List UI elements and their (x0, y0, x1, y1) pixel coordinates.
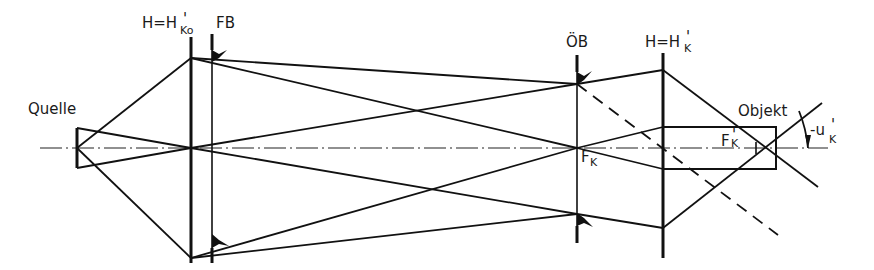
svg-text:K: K (590, 156, 598, 169)
svg-text:K: K (829, 133, 837, 146)
focal-point-label: F K (581, 148, 598, 169)
svg-text:K: K (684, 42, 692, 55)
collector-lens-label: H=H ' Ko (142, 10, 194, 37)
svg-text:H=H: H=H (142, 14, 177, 32)
object-label: Objekt (738, 102, 787, 120)
koehler-illumination-diagram: Quelle H=H ' Ko FB ÖB H=H ' K F K F ' K … (0, 0, 874, 270)
condenser-output-rays (663, 70, 822, 228)
svg-text:F: F (721, 132, 730, 150)
svg-text:-u: -u (810, 121, 825, 139)
svg-text:K: K (731, 137, 739, 150)
focal-point-prime-label: F ' K (721, 126, 739, 150)
field-stop-bottom-marker-icon (212, 234, 229, 248)
svg-text:Ko: Ko (180, 24, 194, 37)
angle-label: -u ' K (810, 116, 837, 146)
aperture-stop-label: ÖB (566, 32, 588, 51)
svg-text:H=H: H=H (645, 33, 680, 51)
condenser-lens-label: H=H ' K (645, 28, 692, 55)
svg-text:': ' (831, 116, 835, 134)
svg-text:F: F (581, 148, 590, 166)
source-label: Quelle (28, 100, 76, 118)
field-stop-label: FB (216, 14, 235, 32)
